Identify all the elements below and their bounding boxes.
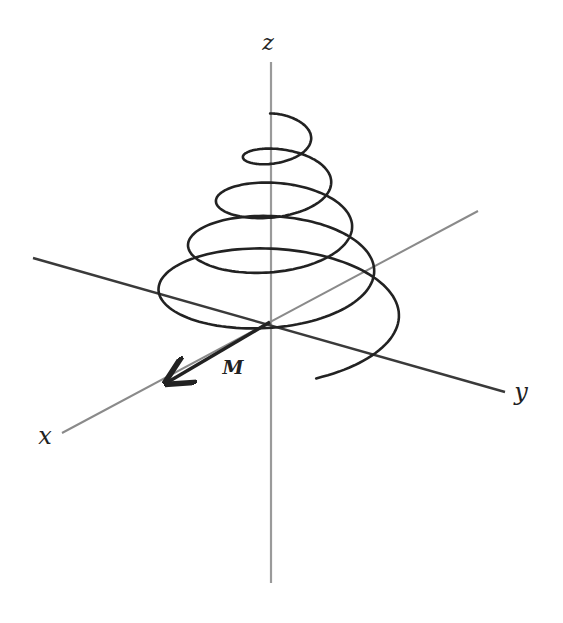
- vector-m-label: M: [221, 356, 244, 378]
- x-axis-label: x: [38, 422, 52, 450]
- helix-diagram: z y x M: [0, 0, 563, 623]
- helix-spiral-curve: [159, 114, 399, 379]
- magnetization-vector-arrow: [168, 322, 270, 382]
- y-axis-label: y: [513, 378, 528, 406]
- y-axis-line: [33, 258, 505, 392]
- z-axis-label: z: [261, 30, 274, 55]
